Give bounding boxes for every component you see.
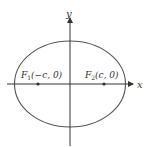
focus-2-label: F2(c, 0) (84, 70, 119, 81)
y-axis-label: y (65, 8, 72, 19)
x-axis-label: x (137, 79, 143, 90)
ellipse-diagram: x y F1(−c, 0) F2(c, 0) (0, 0, 156, 147)
focus-1-label: F1(−c, 0) (20, 70, 63, 81)
focus-2-point (102, 82, 105, 85)
focus-1-point (36, 82, 39, 85)
